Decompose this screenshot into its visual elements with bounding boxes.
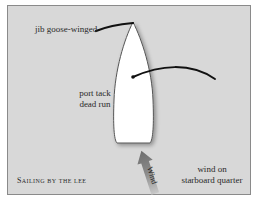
wind-direction-label: wind on starboard quarter <box>176 164 248 186</box>
mast-dot <box>131 75 135 79</box>
jib-label: jib goose-winged <box>35 24 97 35</box>
tack-label: port tack dead run <box>75 88 115 110</box>
boat-hull <box>114 22 154 143</box>
jib-line <box>96 23 133 31</box>
wind-label-line1: wind on <box>176 164 248 175</box>
wind-label-line2: starboard quarter <box>176 175 248 186</box>
tack-label-line2: dead run <box>75 99 115 110</box>
tack-label-line1: port tack <box>75 88 115 99</box>
wind-arrow: Wind <box>134 148 163 196</box>
diagram-caption: Sailing by the lee <box>17 176 86 185</box>
